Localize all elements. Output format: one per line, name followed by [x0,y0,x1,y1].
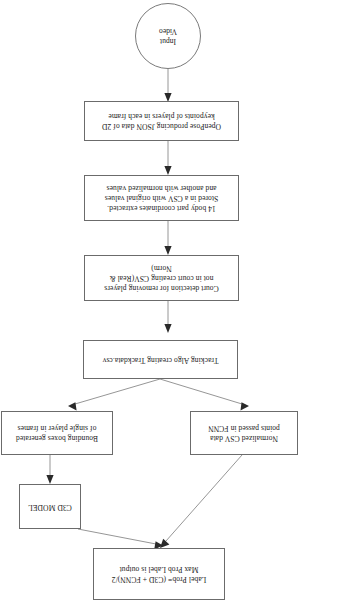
edge-tracking-to-bbox [75,379,160,404]
node-tracking-algo[interactable]: Tracking Algo creating Trackdata.csv [83,340,238,379]
edge-tracking-to-normalized [160,379,242,404]
node-bounding-boxes-label: Bounding boxes generated of single playe… [6,423,108,443]
node-input-video-label: Input Video [159,26,177,46]
arrowhead-bbox-to-c3d [46,475,53,484]
node-normalized-fcnn-label: Normalized CSV data points passed in FCN… [195,423,293,443]
node-body-part-coordinates[interactable]: 14 body part coordinates extracted. Stor… [84,175,239,221]
node-normalized-fcnn[interactable]: Normalized CSV data points passed in FCN… [190,411,298,455]
node-openpose[interactable]: OpenPose producing JSON data of 2D keypo… [84,101,239,141]
arrowhead-court-to-tracking [164,324,171,333]
edge-c3d-to-fusion [78,529,156,544]
edge-normalized-to-fusion [166,455,242,541]
arrowhead-normalized-to-fusion [160,539,169,548]
node-court-detection-label: Court detection for removing players not… [89,263,234,293]
arrowhead-openpose-to-bodyparts [164,166,171,175]
node-c3d-model-label: C3D MODEL [24,502,76,512]
flowchart-canvas: Input Video OpenPose producing JSON data… [0,0,338,614]
arrowhead-bodyparts-to-court [164,246,171,255]
node-court-detection[interactable]: Court detection for removing players not… [84,255,239,301]
flowchart-page: Input Video OpenPose producing JSON data… [0,0,338,614]
node-label-fusion-label: Label Prob= (C3D + FCNN)/2 Max Prob Labe… [98,564,220,584]
node-tracking-algo-label: Tracking Algo creating Trackdata.csv [88,355,233,365]
node-body-part-coordinates-label: 14 body part coordinates extracted. Stor… [89,183,234,213]
node-label-fusion[interactable]: Label Prob= (C3D + FCNN)/2 Max Prob Labe… [93,548,225,600]
arrowhead-tracking-to-normalized [241,402,250,410]
node-openpose-label: OpenPose producing JSON data of 2D keypo… [89,111,234,131]
node-c3d-model[interactable]: C3D MODEL [19,484,81,529]
arrowhead-tracking-to-bbox [68,402,77,410]
node-bounding-boxes[interactable]: Bounding boxes generated of single playe… [1,411,113,455]
node-input-video[interactable]: Input Video [135,3,201,69]
